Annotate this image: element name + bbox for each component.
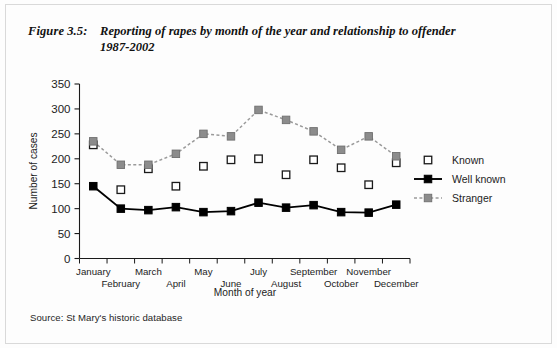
data-point-stranger-december <box>392 153 400 161</box>
data-point-stranger-march <box>145 161 153 169</box>
data-point-well-known-february <box>117 205 125 213</box>
x-axis-tick-labels: JanuaryFebruaryMarchAprilMayJuneJulyAugu… <box>76 266 419 289</box>
x-tick-label-july: July <box>250 266 267 277</box>
data-point-stranger-october <box>337 146 345 154</box>
x-tick-label-november: November <box>346 266 391 277</box>
data-point-stranger-september <box>310 128 318 136</box>
figure-container: Figure 3.5: Reporting of rapes by month … <box>0 0 557 348</box>
data-point-well-known-may <box>200 208 208 216</box>
data-point-well-known-august <box>282 204 290 212</box>
data-point-well-known-april <box>172 203 180 211</box>
y-axis-title: Number of cases <box>28 132 39 209</box>
x-axis-title: Month of year <box>214 287 277 298</box>
legend-item-known: Known <box>424 154 484 166</box>
chart-plot-area: 050100150200250300350 JanuaryFebruaryMar… <box>0 0 557 348</box>
data-point-known-november <box>365 181 373 189</box>
legend-marker <box>424 175 432 183</box>
legend-marker <box>424 194 432 202</box>
chart-legend: KnownWell knownStranger <box>414 154 506 204</box>
data-point-well-known-july <box>255 199 262 207</box>
legend-marker <box>424 156 432 164</box>
data-point-stranger-august <box>282 116 290 124</box>
y-tick-label: 0 <box>64 253 70 265</box>
y-tick-label: 200 <box>51 153 70 165</box>
data-point-stranger-june <box>227 133 235 141</box>
series-line-stranger <box>93 110 396 165</box>
data-point-known-june <box>227 156 235 164</box>
y-tick-label: 150 <box>51 178 70 190</box>
data-point-known-july <box>255 155 262 163</box>
y-tick-label: 250 <box>51 128 70 140</box>
data-point-known-april <box>172 182 180 190</box>
data-point-stranger-january <box>90 138 98 146</box>
x-tick-label-december: December <box>374 278 419 289</box>
data-point-known-august <box>282 171 290 179</box>
data-point-well-known-november <box>365 209 373 217</box>
x-tick-label-march: March <box>135 266 162 277</box>
legend-label: Stranger <box>452 192 493 204</box>
legend-label: Known <box>452 154 484 166</box>
y-tick-label: 350 <box>51 78 70 90</box>
legend-label: Well known <box>452 173 506 185</box>
x-tick-label-september: September <box>290 266 338 277</box>
data-point-well-known-march <box>145 206 153 214</box>
y-tick-label: 300 <box>51 103 70 115</box>
x-axis-ticks <box>80 259 411 264</box>
data-point-stranger-july <box>255 106 262 114</box>
x-tick-label-october: October <box>324 278 359 289</box>
y-tick-label: 50 <box>58 228 71 240</box>
data-point-known-october <box>337 164 345 172</box>
data-point-well-known-june <box>227 207 235 215</box>
series-lines <box>93 110 396 213</box>
source-note: Source: St Mary's historic database <box>30 312 182 323</box>
data-point-stranger-april <box>172 150 180 158</box>
series-line-well-known <box>93 186 396 212</box>
y-axis-tick-labels: 050100150200250300350 <box>51 78 70 265</box>
x-tick-label-january: January <box>76 266 111 277</box>
line-chart: 050100150200250300350 JanuaryFebruaryMar… <box>0 0 557 348</box>
legend-item-well-known: Well known <box>414 173 506 185</box>
data-point-known-february <box>117 186 125 194</box>
y-tick-label: 100 <box>51 203 70 215</box>
data-point-well-known-december <box>392 201 400 209</box>
data-point-well-known-october <box>337 208 345 216</box>
legend-item-stranger: Stranger <box>414 192 493 204</box>
x-tick-label-may: May <box>194 266 212 277</box>
data-point-stranger-february <box>117 161 125 169</box>
data-point-well-known-january <box>90 182 98 190</box>
x-tick-label-april: April <box>166 278 185 289</box>
x-tick-label-february: February <box>101 278 140 289</box>
data-point-stranger-november <box>365 133 373 141</box>
data-point-stranger-may <box>200 130 208 138</box>
data-point-known-september <box>310 156 318 164</box>
data-point-well-known-september <box>310 201 318 209</box>
data-point-known-may <box>200 163 208 171</box>
y-axis-ticks <box>75 84 80 259</box>
